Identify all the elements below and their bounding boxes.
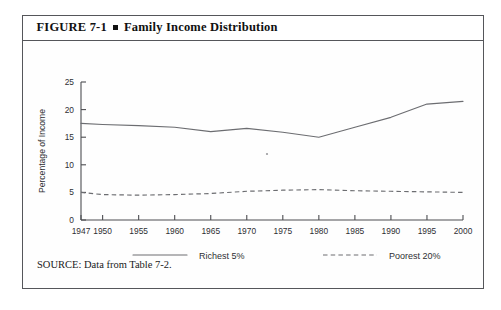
figure-frame: FIGURE 7-1Family Income Distribution 051… — [22, 15, 484, 289]
y-axis-ticks: 0510152025 — [65, 77, 86, 225]
chart-legend: Richest 5%Poorest 20% — [133, 251, 441, 261]
figure-title-label: Family Income Distribution — [124, 20, 278, 34]
y-tick-label: 20 — [65, 105, 75, 115]
x-tick-label: 1970 — [237, 226, 256, 236]
x-tick-label: 1947 — [72, 226, 91, 236]
y-tick-label: 10 — [65, 160, 75, 170]
legend-label: Poorest 20% — [389, 251, 441, 261]
source-note: SOURCE: Data from Table 7-2. — [37, 259, 172, 270]
series-line-richest-5 — [81, 101, 463, 137]
legend-label: Richest 5% — [199, 251, 245, 261]
y-axis-title: Percentage of Income — [37, 109, 47, 193]
chart-axes — [81, 82, 463, 220]
y-tick-label: 15 — [65, 132, 75, 142]
y-tick-label: 0 — [69, 215, 74, 225]
x-tick-label: 1985 — [346, 226, 365, 236]
series-line-poorest-20 — [81, 190, 463, 196]
chart-plot-area: 0510152025 19471950195519601965197019751… — [23, 42, 482, 288]
x-tick-label: 2000 — [454, 226, 473, 236]
x-tick-label: 1950 — [93, 226, 112, 236]
x-tick-label: 1990 — [382, 226, 401, 236]
x-tick-label: 1960 — [165, 226, 184, 236]
x-tick-label: 1995 — [418, 226, 437, 236]
figure-number: FIGURE 7-1 — [37, 20, 107, 34]
figure-title-bar: FIGURE 7-1Family Income Distribution — [22, 15, 484, 41]
x-axis-ticks: 1947195019551960196519701975198019851990… — [72, 215, 473, 236]
scan-artifact-speck — [266, 153, 268, 155]
y-tick-label: 25 — [65, 77, 75, 87]
square-bullet-icon — [113, 25, 118, 30]
line-chart: 0510152025 19471950195519601965197019751… — [23, 42, 482, 288]
x-tick-label: 1975 — [273, 226, 292, 236]
x-tick-label: 1965 — [201, 226, 220, 236]
x-tick-label: 1980 — [310, 226, 329, 236]
chart-series — [81, 101, 463, 195]
figure-title: FIGURE 7-1Family Income Distribution — [23, 20, 278, 35]
y-tick-label: 5 — [69, 187, 74, 197]
x-tick-label: 1955 — [129, 226, 148, 236]
